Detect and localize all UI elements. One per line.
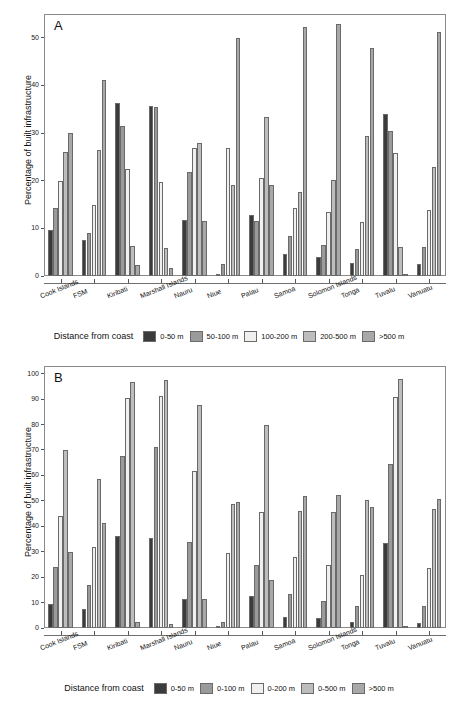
panel-a-bar-group xyxy=(44,14,446,276)
bar xyxy=(249,596,254,628)
panel-b-legend-title: Distance from coast xyxy=(64,683,144,693)
bar xyxy=(398,247,403,276)
legend-item[interactable]: 0-50 m xyxy=(143,331,183,342)
legend-item[interactable]: 0-200 m xyxy=(251,683,296,694)
bar xyxy=(149,106,154,276)
bar xyxy=(58,516,63,628)
legend-label: 200-500 m xyxy=(320,332,356,341)
bar xyxy=(360,575,365,628)
bar xyxy=(336,495,341,628)
bar xyxy=(97,479,102,628)
legend-swatch xyxy=(154,683,167,694)
bar xyxy=(58,181,63,276)
panel-b-plot-area: B xyxy=(44,366,446,628)
x-tick-line xyxy=(262,279,263,283)
bar xyxy=(422,606,427,628)
bar xyxy=(192,148,197,276)
bar xyxy=(370,507,375,628)
x-tick-line xyxy=(362,631,363,635)
x-tick-label: Nauru xyxy=(173,638,194,653)
bar xyxy=(283,617,288,628)
panel-b-x-axis: Cook IslandsFSMKiribatiMarshall IslandsN… xyxy=(44,635,446,675)
legend-item[interactable]: 200-500 m xyxy=(303,331,356,342)
bar xyxy=(259,512,264,628)
x-tick-line xyxy=(94,279,95,283)
x-tick-label: Niue xyxy=(206,288,222,301)
bar xyxy=(216,626,221,628)
bar xyxy=(388,464,393,628)
bar xyxy=(102,523,107,628)
legend-item[interactable]: 100-200 m xyxy=(244,331,297,342)
bar xyxy=(154,107,159,276)
legend-swatch xyxy=(352,683,365,694)
bar xyxy=(437,499,442,628)
x-tick-label: Tuvalu xyxy=(374,285,396,300)
bar xyxy=(331,512,336,628)
legend-label: 0-50 m xyxy=(171,684,194,693)
bar xyxy=(221,264,226,276)
y-tick-label: 100 xyxy=(27,369,39,378)
x-tick-line xyxy=(228,631,229,635)
x-tick-label: Samoa xyxy=(273,285,297,301)
bar xyxy=(293,208,298,276)
bar xyxy=(283,254,288,276)
bar xyxy=(48,604,53,628)
bar xyxy=(221,622,226,628)
bar xyxy=(68,552,73,628)
bar xyxy=(159,182,164,276)
bar xyxy=(226,553,231,628)
legend-item[interactable]: >500 m xyxy=(362,331,404,342)
bar xyxy=(249,215,254,276)
x-tick-label: Samoa xyxy=(273,637,297,653)
x-tick-label: Nauru xyxy=(173,286,194,301)
bar xyxy=(197,405,202,628)
bar xyxy=(202,599,207,628)
x-tick-line xyxy=(262,631,263,635)
bar xyxy=(216,274,221,276)
x-tick-label: Vanuatu xyxy=(407,283,434,300)
x-tick-label: Kiribati xyxy=(106,637,129,652)
x-tick-line xyxy=(128,631,129,635)
bar xyxy=(197,143,202,276)
legend-label: >500 m xyxy=(379,332,404,341)
bar xyxy=(192,471,197,628)
bar xyxy=(115,103,120,276)
bar xyxy=(115,536,120,628)
bar xyxy=(298,192,303,276)
bar xyxy=(135,622,140,628)
legend-label: 0-50 m xyxy=(160,332,183,341)
bar xyxy=(365,500,370,628)
legend-item[interactable]: 0-500 m xyxy=(301,683,346,694)
legend-item[interactable]: 0-100 m xyxy=(200,683,245,694)
bar xyxy=(437,32,442,276)
legend-label: 0-200 m xyxy=(268,684,296,693)
bar xyxy=(432,509,437,628)
x-tick-line xyxy=(94,631,95,635)
x-tick-label: Tonga xyxy=(340,638,361,653)
x-tick-label: Palau xyxy=(240,286,260,300)
bar xyxy=(365,136,370,276)
panel-a-legend-title: Distance from coast xyxy=(54,331,134,341)
y-tick-label: 0 xyxy=(35,271,39,280)
legend-item[interactable]: 50-100 m xyxy=(190,331,239,342)
bar xyxy=(169,624,174,628)
legend-swatch xyxy=(251,683,264,694)
legend-swatch xyxy=(301,683,314,694)
panel-a-y-axis-label: Percentage of built infrastructure xyxy=(23,30,33,250)
bar xyxy=(82,609,87,628)
bar xyxy=(159,396,164,628)
x-tick-line xyxy=(295,631,296,635)
bar xyxy=(331,180,336,276)
legend-item[interactable]: 0-50 m xyxy=(154,683,194,694)
bar xyxy=(403,626,408,628)
legend-item[interactable]: >500 m xyxy=(352,683,394,694)
bar xyxy=(427,210,432,276)
x-tick-label: Niue xyxy=(206,640,222,653)
bar xyxy=(63,450,68,628)
x-tick-line xyxy=(61,279,62,283)
bar xyxy=(63,152,68,276)
bar xyxy=(432,167,437,276)
bar xyxy=(202,221,207,276)
bar xyxy=(164,248,169,276)
bar xyxy=(393,153,398,276)
